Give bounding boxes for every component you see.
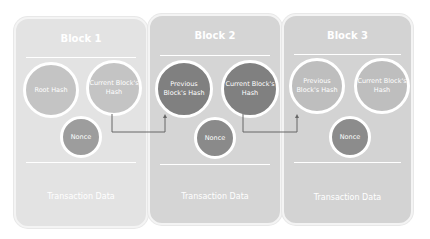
arrow-block1-to-block2 bbox=[112, 114, 165, 132]
hash-link-arrows bbox=[0, 0, 430, 239]
arrow-block2-to-block3 bbox=[243, 114, 297, 132]
